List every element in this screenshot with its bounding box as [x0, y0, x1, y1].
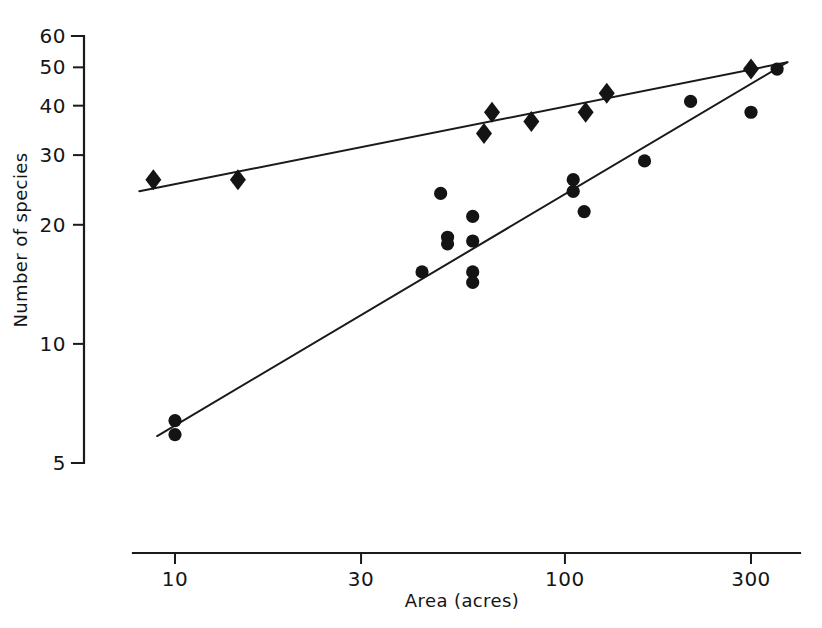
data-point-circle — [466, 276, 479, 289]
data-point-circle — [771, 62, 784, 75]
data-point-circle — [578, 205, 591, 218]
x-tick-label-10: 10 — [162, 567, 188, 591]
y-tick-label-20: 20 — [40, 213, 66, 237]
data-point-diamond — [599, 83, 615, 104]
data-markers-group — [145, 59, 783, 442]
y-axis-tick-labels: 5102030405060 — [40, 24, 66, 475]
data-point-circle — [466, 234, 479, 247]
data-point-circle — [434, 187, 447, 200]
x-axis-tick-labels: 1030100300 — [162, 567, 771, 591]
data-point-circle — [168, 428, 181, 441]
data-point-diamond — [476, 123, 492, 144]
y-tick-label-60: 60 — [40, 24, 66, 48]
chart-canvas: 5102030405060 1030100300 Area (acres) Nu… — [0, 0, 822, 628]
data-point-circle — [567, 173, 580, 186]
fit-line-lower-series — [157, 62, 787, 436]
y-tick-label-50: 50 — [40, 55, 66, 79]
data-point-circle — [744, 106, 757, 119]
x-axis-ticks — [175, 553, 751, 564]
y-axis-group: 5102030405060 — [40, 24, 84, 475]
data-point-circle — [441, 237, 454, 250]
data-point-diamond — [743, 59, 759, 80]
species-area-chart-figure: 5102030405060 1030100300 Area (acres) Nu… — [0, 0, 822, 628]
data-point-diamond — [578, 102, 594, 123]
data-point-circle — [638, 154, 651, 167]
regression-lines-group — [139, 62, 787, 436]
data-point-circle — [168, 414, 181, 427]
y-tick-label-10: 10 — [40, 332, 66, 356]
x-tick-label-300: 300 — [731, 567, 771, 591]
data-point-circle — [684, 95, 697, 108]
data-point-circle — [415, 265, 428, 278]
x-tick-label-100: 100 — [545, 567, 585, 591]
y-tick-label-30: 30 — [40, 143, 66, 167]
y-axis-title: Number of species — [10, 152, 31, 327]
data-point-circle — [567, 185, 580, 198]
x-axis-title: Area (acres) — [405, 590, 519, 611]
x-axis-group: 1030100300 — [133, 553, 800, 591]
x-tick-label-30: 30 — [348, 567, 374, 591]
y-tick-label-40: 40 — [40, 94, 66, 118]
data-point-circle — [466, 210, 479, 223]
y-axis-ticks — [73, 67, 84, 344]
y-tick-label-5: 5 — [53, 451, 66, 475]
y-axis-line — [72, 36, 84, 463]
